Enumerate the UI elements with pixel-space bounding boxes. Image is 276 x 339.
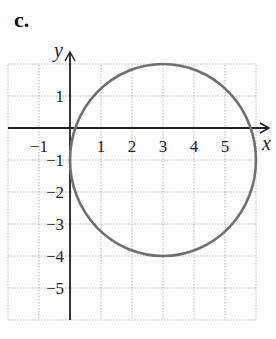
x-tick-label: 2: [128, 137, 137, 156]
y-tick-label: 1: [56, 87, 65, 106]
x-axis-label: x: [261, 132, 271, 154]
y-axis-label: y: [52, 39, 63, 62]
x-tick-label: 1: [97, 137, 106, 156]
y-tick-label: −3: [46, 215, 64, 234]
x-tick-label: 5: [221, 137, 230, 156]
y-tick-label: −2: [46, 183, 64, 202]
x-tick-label: 4: [190, 137, 199, 156]
chart: −1123451−1−2−3−4−5 c. x y: [0, 0, 276, 339]
x-tick-label: 3: [159, 137, 168, 156]
panel-label: c.: [14, 7, 29, 32]
y-tick-label: −1: [46, 151, 64, 170]
y-tick-label: −5: [46, 279, 64, 298]
tick-labels: −1123451−1−2−3−4−5: [30, 87, 229, 298]
y-tick-label: −4: [46, 247, 65, 266]
